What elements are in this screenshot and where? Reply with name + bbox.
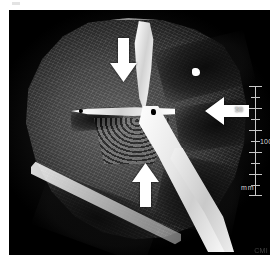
ruler-tick: [249, 86, 262, 87]
ruler-tick: [251, 185, 260, 186]
corner-watermark: CMI: [254, 247, 268, 254]
ruler-tick: [251, 141, 260, 142]
ruler-tick: [249, 108, 262, 109]
ruler-tick: [251, 119, 260, 120]
ruler-tick: [249, 174, 262, 175]
figure-root: 50 100 mm CMI: [0, 0, 278, 265]
annotation-arrow-down: [110, 38, 137, 82]
annotation-arrow-left: [205, 97, 249, 125]
ruler-label-units: mm: [241, 184, 255, 191]
annotation-arrow-up: [132, 163, 159, 207]
ruler-label-100: 100: [260, 138, 270, 145]
ruler-tick: [249, 152, 262, 153]
ct-image-panel: 50 100 mm CMI: [9, 10, 270, 255]
ruler-tick: [251, 163, 260, 164]
ruler-axis-line: [255, 86, 256, 196]
ruler-tick: [251, 97, 260, 98]
scan-residue-mark: [12, 2, 20, 5]
measurement-ruler: 50 100 mm: [247, 86, 270, 196]
ruler-tick: [249, 195, 262, 196]
ruler-tick: [249, 130, 262, 131]
